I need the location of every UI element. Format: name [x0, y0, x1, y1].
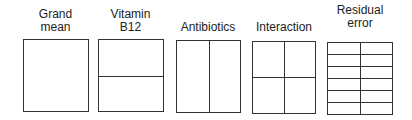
antibiotics-box: [176, 40, 241, 113]
antibiotics-label: Antibiotics: [168, 8, 248, 34]
interaction-label: Interaction: [243, 8, 325, 34]
residual-row-divider: [328, 90, 392, 91]
residual-row-divider: [328, 78, 392, 79]
interaction-box: [252, 41, 316, 114]
grand-mean-box: [23, 39, 89, 112]
vitamin-b12-label: Vitamin B12: [93, 8, 168, 34]
antibiotics-label-line2: Antibiotics: [168, 21, 248, 34]
residual-error-label: Residual error: [320, 4, 400, 30]
residual-row-divider: [328, 54, 392, 55]
grand-mean-label-line2: mean: [18, 21, 93, 34]
interaction-v-divider: [284, 42, 285, 113]
grand-mean-label: Grand mean: [18, 8, 93, 34]
residual-row-divider: [328, 102, 392, 103]
residual-error-box: [327, 42, 393, 115]
vitamin-b12-label-line2: B12: [93, 21, 168, 34]
vitamin-b12-box: [98, 39, 164, 112]
residual-error-label-line2: error: [320, 17, 400, 30]
interaction-label-line2: Interaction: [243, 21, 325, 34]
residual-row-divider: [328, 66, 392, 67]
vitamin-b12-divider: [99, 76, 163, 77]
antibiotics-divider: [209, 41, 210, 112]
